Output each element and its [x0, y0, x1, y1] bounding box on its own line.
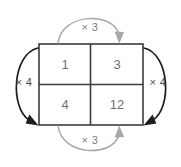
arrow-bottom-head-icon	[115, 126, 125, 138]
arrow-bottom-multiply-3: × 3	[58, 126, 124, 151]
diagram-canvas: 1 3 4 12 × 3 × 3 × 4 × 4	[0, 0, 181, 167]
arrow-left-label: × 4	[16, 76, 33, 88]
arrow-right-multiply-4: × 4	[144, 48, 167, 126]
arrow-top-head-icon	[115, 32, 125, 44]
cell-row1-col0: 4	[61, 97, 68, 112]
arrow-top-multiply-3: × 3	[58, 18, 124, 43]
arrow-left-multiply-4: × 4	[16, 48, 39, 126]
arrow-right-head-icon	[144, 115, 157, 126]
arrow-left-head-icon	[26, 115, 39, 126]
cell-row0-col0: 1	[61, 57, 68, 72]
ratio-table-diagram: 1 3 4 12 × 3 × 3 × 4 × 4	[0, 0, 181, 167]
cell-row0-col1: 3	[113, 57, 120, 72]
arrow-top-label: × 3	[82, 21, 99, 33]
arrow-bottom-label: × 3	[82, 134, 99, 146]
grid-table: 1 3 4 12	[39, 44, 143, 125]
cell-row1-col1: 12	[110, 97, 124, 112]
arrow-right-label: × 4	[150, 76, 167, 88]
